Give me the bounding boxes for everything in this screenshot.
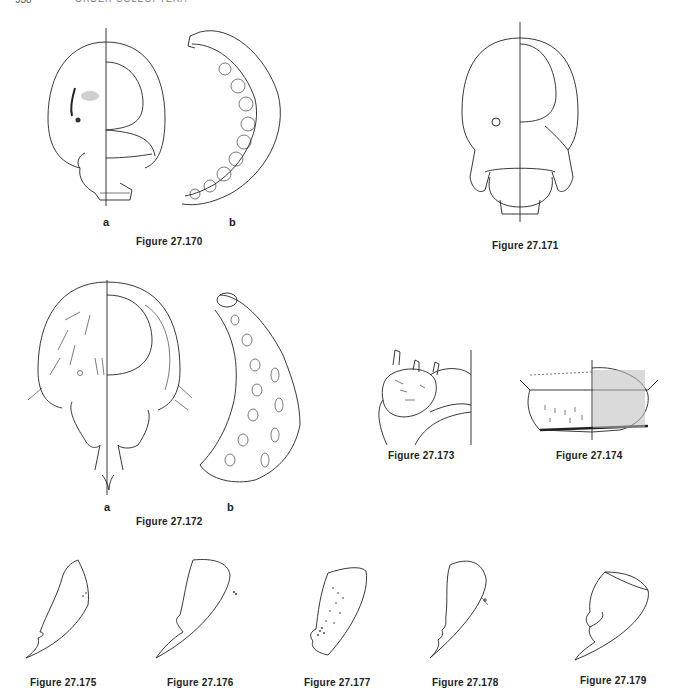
figure-27-172-caption: Figure 27.172: [136, 516, 203, 527]
figure-27-176-mandible-drawing: [148, 560, 238, 660]
page-number: 938: [15, 0, 32, 5]
figure-27-176-caption: Figure 27.176: [167, 677, 234, 688]
figure-27-174-caption: Figure 27.174: [556, 450, 623, 461]
figure-27-178-caption: Figure 27.178: [432, 677, 499, 688]
figure-27-170b-larva-drawing: [170, 24, 300, 214]
figure-27-174-labrum-drawing: [520, 360, 660, 440]
figure-27-170-label-a: a: [103, 216, 109, 228]
figure-27-179-caption: Figure 27.179: [580, 675, 647, 686]
figure-27-171-head-drawing: [440, 22, 590, 222]
figure-27-177-mandible-drawing: [298, 563, 378, 658]
figure-27-171-caption: Figure 27.171: [492, 240, 559, 251]
figure-27-175-caption: Figure 27.175: [30, 677, 97, 688]
figure-27-170-label-b: b: [229, 216, 236, 228]
figure-27-172-label-b: b: [227, 501, 234, 513]
figure-27-177-caption: Figure 27.177: [304, 677, 371, 688]
figure-27-173-labrum-drawing: [375, 350, 475, 445]
figure-27-172a-head-drawing: [20, 280, 200, 490]
figure-27-178-mandible-drawing: [420, 560, 510, 660]
figure-27-172b-larva-drawing: [195, 285, 305, 495]
figure-27-170-caption: Figure 27.170: [136, 236, 203, 247]
figure-27-172-label-a: a: [104, 501, 110, 513]
figure-27-179-mandible-drawing: [560, 572, 665, 662]
figure-27-173-caption: Figure 27.173: [388, 450, 455, 461]
figure-27-170a-head-drawing: [40, 28, 170, 208]
figure-27-175-mandible-drawing: [18, 560, 108, 660]
running-head: ORDER COLEOPTERA: [75, 0, 188, 4]
